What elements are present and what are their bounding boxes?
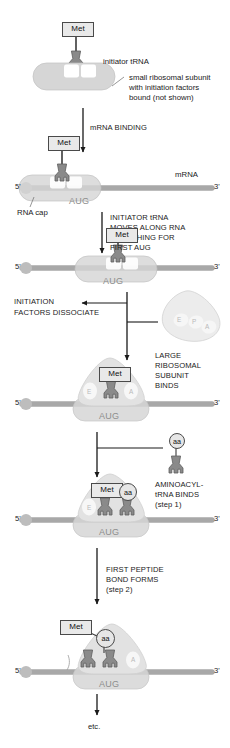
arrow-label-scanning-line4: FIRST AUG [110,244,151,253]
arrow-label-peptide-line3: (step 2) [106,586,133,595]
met-label-step1: Met [62,22,94,37]
large-subunit-site-a: A [205,323,209,330]
a-site-label-step5: A [129,388,133,395]
mrna-label: mRNA [175,171,198,180]
five-prime-label-step7: 5' [15,666,21,675]
step-factors-dissociate [82,291,220,360]
aa-label-step7: aa [96,629,115,648]
arrow-label-large-subunit-line2: RIBOSOMAL [155,362,201,371]
aug-codon-label-step5: AUG [99,411,119,421]
a-site-label-step7: A [131,656,135,663]
aa-label-free: aa [169,433,185,449]
large-ribosomal-subunit-icon [162,291,220,342]
small-ribosomal-subunit-icon [33,63,115,90]
arrow-label-mrna-binding: mRNA BINDING [90,124,147,133]
initiation-factors-label-line1: INITIATION [14,298,54,307]
e-site-label-step5: E [87,388,91,395]
five-prime-label-step6: 5' [15,514,21,523]
etc-label: etc. [88,722,100,731]
three-prime-label-step3: 3' [214,262,220,271]
initiation-factors-label-line2: FACTORS DISSOCIATE [14,309,99,318]
rna-cap-icon [20,398,32,410]
arrow-label-peptide-line1: FIRST PEPTIDE [106,566,164,575]
aug-codon-label-step6: AUG [99,527,119,537]
small-subunit-caption-line1: small ribosomal subunit [129,74,210,83]
aminoacyl-trna-icon [169,456,183,473]
aa-label-bound: aa [119,483,137,501]
small-subunit-caption-line3: bound (not shown) [129,94,194,103]
rna-cap-icon [20,262,32,274]
three-prime-label-step7: 3' [214,666,220,675]
small-subunit-caption-line2: with initiation factors [129,84,199,93]
met-label-step3: Met [106,228,138,243]
initiator-trna-icon [55,164,69,181]
arrow-label-large-subunit-line4: BINDS [155,382,179,391]
rna-cap-icon [20,666,32,678]
arrow-label-scanning-line1: INITIATOR tRNA [110,214,169,223]
arrow-label-aminoacyl-line2: tRNA BINDS [155,491,199,500]
ribosome-edge-mark [67,655,69,670]
arrow-label-aminoacyl-line3: (step 1) [155,501,182,510]
five-prime-label-step5: 5' [15,398,21,407]
aug-codon-label-step7: AUG [99,679,119,689]
three-prime-label-step6: 3' [214,514,220,523]
arrow-label-large-subunit-line3: SUBUNIT [155,372,189,381]
met-label-step7: Met [60,620,92,635]
five-prime-label-step2: 5' [15,182,21,191]
rna-cap-label: RNA cap [17,209,48,218]
aug-codon-label-step3: AUG [103,276,123,286]
five-prime-label-step3: 5' [15,262,21,271]
rna-cap-icon [20,514,32,526]
initiator-trna-label: initiator tRNA [103,58,149,67]
met-label-step5: Met [99,367,131,382]
three-prime-label-step2: 3' [214,182,220,191]
arrow-label-large-subunit-line1: LARGE [155,352,181,361]
arrow-label-aminoacyl-line1: AMINOACYL- [155,481,203,490]
large-subunit-site-p: P [192,318,196,325]
met-label-step2: Met [48,136,80,151]
three-prime-label-step5: 3' [214,398,220,407]
e-site-label-step6: E [87,504,91,511]
aug-codon-label-step2: AUG [69,196,89,206]
large-subunit-site-e: E [177,316,181,323]
arrow-label-peptide-line2: BOND FORMS [106,576,158,585]
